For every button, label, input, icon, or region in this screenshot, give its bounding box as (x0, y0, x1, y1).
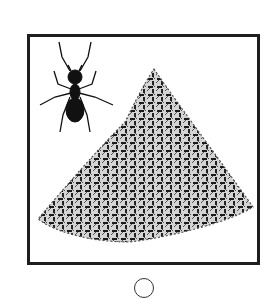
option-illustration (30, 37, 257, 262)
answer-radio-button[interactable]: radio-circle-icon (134, 278, 154, 298)
option-image-frame: A single ant beside a large pile of many… (27, 34, 260, 265)
ant-icon (40, 42, 113, 132)
radio-circle-icon: radio-circle-icon (135, 279, 136, 280)
